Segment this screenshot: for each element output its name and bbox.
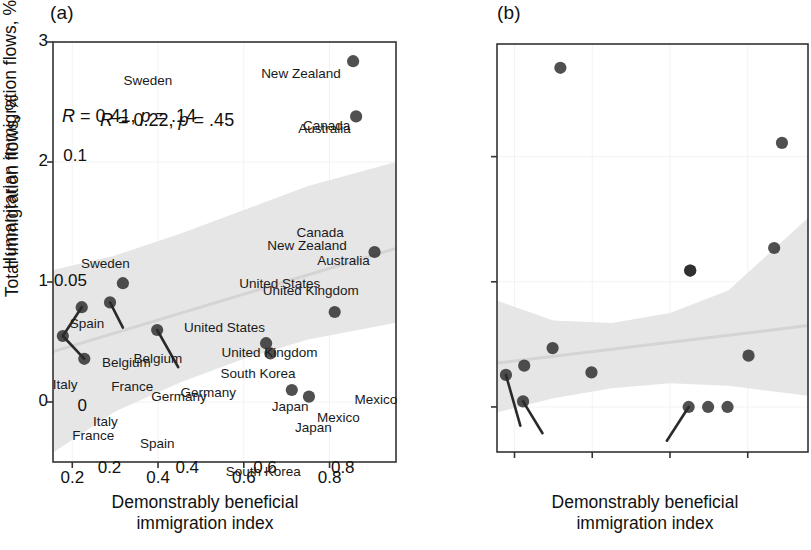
point-label: Japan xyxy=(272,400,309,414)
data-point xyxy=(350,110,362,122)
data-point xyxy=(776,137,788,149)
point-label: France xyxy=(72,429,114,443)
data-point xyxy=(347,55,359,67)
data-point xyxy=(768,242,780,254)
point-label: Sweden xyxy=(123,74,172,88)
data-point xyxy=(517,395,529,407)
panel-b-y-axis-title: Humanitarian immigration flows, % xyxy=(0,0,21,269)
point-label: Sweden xyxy=(81,257,130,271)
point-label: Italy xyxy=(93,415,118,429)
data-point xyxy=(104,296,116,308)
y-tick-label: 0.1 xyxy=(63,146,87,166)
point-label: Japan xyxy=(295,421,332,435)
y-tick-label: 0.05 xyxy=(54,271,87,291)
panel-b-x-axis-title: Demonstrably beneficial immigration inde… xyxy=(475,492,811,533)
y-tick-label: 1 xyxy=(39,271,48,291)
x-tick-label: 0.2 xyxy=(85,458,135,478)
point-label: New Zealand xyxy=(261,67,341,81)
data-point xyxy=(742,350,754,362)
x-tick-label: 0.8 xyxy=(318,458,368,478)
point-label: Mexico xyxy=(355,393,398,407)
data-point xyxy=(684,264,696,276)
data-point xyxy=(554,62,566,74)
panel-a-x-axis-title: Demonstrably beneficial immigration inde… xyxy=(30,492,380,533)
x-tick-label: 0.6 xyxy=(240,458,290,478)
data-point xyxy=(585,366,597,378)
data-point xyxy=(329,306,341,318)
data-point xyxy=(721,401,733,413)
point-label: New Zealand xyxy=(267,239,347,253)
stat-R-symbol: R xyxy=(62,106,75,126)
y-tick-label: 0 xyxy=(78,396,87,416)
panel-b-plot xyxy=(405,0,811,550)
data-point xyxy=(546,342,558,354)
data-point xyxy=(368,246,380,258)
point-label: Italy xyxy=(53,378,78,392)
figure-root: (a) Total immigration flows, % Demonstra… xyxy=(0,0,811,550)
point-label: United Kingdom xyxy=(222,346,318,360)
point-label: France xyxy=(111,380,153,394)
stat-p-symbol: p xyxy=(179,110,189,130)
data-point xyxy=(117,277,129,289)
point-label: United States xyxy=(239,277,320,291)
data-point xyxy=(518,360,530,372)
point-label: Canada xyxy=(303,119,350,133)
data-point xyxy=(76,301,88,313)
data-point xyxy=(500,369,512,381)
point-label: Spain xyxy=(140,437,175,451)
y-tick-label: 0 xyxy=(39,391,48,411)
x-tick-label: 0.4 xyxy=(162,458,212,478)
data-point xyxy=(683,401,695,413)
y-tick-label: 2 xyxy=(39,151,48,171)
data-point xyxy=(57,330,69,342)
point-label: United States xyxy=(184,321,265,335)
panel-b: (b) Demonstrably beneficial immigration … xyxy=(405,0,811,550)
point-label: Spain xyxy=(70,317,105,331)
data-point xyxy=(151,324,163,336)
stat-p-value: = .45 xyxy=(194,110,235,130)
point-label: South Korea xyxy=(220,367,295,381)
correlation-annotation: R = 0.22, p = .45 xyxy=(100,110,234,131)
data-point xyxy=(78,353,90,365)
data-point xyxy=(702,401,714,413)
stat-R-symbol: R xyxy=(100,110,113,130)
y-tick-label: 3 xyxy=(39,31,48,51)
stat-R-value: = 0.22, xyxy=(118,110,174,130)
point-label: Germany xyxy=(180,386,236,400)
point-label: Belgium xyxy=(134,352,183,366)
point-label: Australia xyxy=(317,254,370,268)
data-point xyxy=(286,384,298,396)
